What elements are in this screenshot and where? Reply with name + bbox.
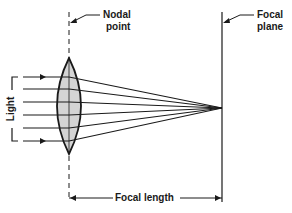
label-line: plane: [257, 21, 283, 33]
arrow-left-icon: [70, 195, 76, 201]
focal-length-label: Focal length: [115, 192, 174, 204]
focal-plane-label: Focal plane: [257, 9, 283, 33]
arrow-right-icon: [215, 195, 221, 201]
label-line: Nodal: [103, 9, 131, 21]
label-line: point: [103, 21, 131, 33]
arrow-icon: [70, 18, 77, 23]
arrow-icon: [40, 74, 46, 80]
lens-diagram: [0, 0, 292, 213]
light-label: Light: [5, 91, 17, 127]
nodal-point-label: Nodal point: [103, 9, 131, 33]
converging-rays: [69, 77, 222, 141]
label-line: Focal: [257, 9, 283, 21]
arrow-icon: [223, 18, 230, 23]
arrow-icon: [40, 138, 46, 144]
